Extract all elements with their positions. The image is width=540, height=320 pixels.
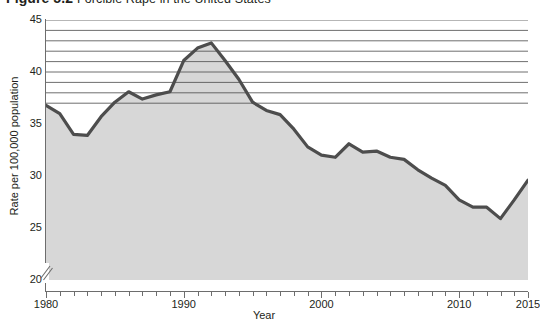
x-axis-tick: [253, 292, 254, 296]
y-axis-line: [45, 19, 46, 281]
x-axis-tick: [404, 292, 405, 296]
x-axis-tick: [198, 292, 199, 296]
y-axis-tick-label: 25: [2, 222, 42, 233]
x-axis-tick: [87, 292, 88, 296]
x-axis-tick: [142, 292, 143, 296]
y-axis-tick-label: 30: [2, 170, 42, 181]
figure-title: Figure 5.2 Forcible Rape in the United S…: [6, 0, 271, 7]
y-axis-tick-label: 20: [2, 274, 42, 285]
plot-area: [46, 20, 528, 280]
x-axis-tick: [335, 292, 336, 296]
x-axis-title: Year: [0, 309, 528, 320]
x-axis-tick: [101, 292, 102, 296]
x-axis-tick: [60, 292, 61, 296]
y-axis-tick-label: 35: [2, 118, 42, 129]
x-axis-tick: [377, 292, 378, 296]
x-axis-tick: [266, 292, 267, 296]
x-axis-tick: [239, 292, 240, 296]
x-axis-tick: [280, 292, 281, 296]
x-axis-tick: [294, 292, 295, 296]
y-axis-tick-label: 40: [2, 66, 42, 77]
x-axis-tick: [487, 292, 488, 296]
x-axis-tick: [514, 292, 515, 296]
axis-break-icon: [39, 263, 53, 283]
y-axis-tick-labels: 454035302520: [0, 0, 42, 320]
x-axis-tick: [129, 292, 130, 296]
x-axis-tick: [432, 292, 433, 296]
x-axis-tick: [473, 292, 474, 296]
x-axis-tick: [363, 292, 364, 296]
x-axis-tick: [170, 292, 171, 296]
figure-caption: Forcible Rape in the United States: [77, 0, 271, 6]
x-axis-tick: [349, 292, 350, 296]
x-axis-tick: [445, 292, 446, 296]
x-axis-tick: [225, 292, 226, 296]
x-axis-tick: [156, 292, 157, 296]
x-axis-tick: [390, 292, 391, 296]
x-axis-tick: [501, 292, 502, 296]
x-axis-tick: [115, 292, 116, 296]
y-axis-tick-label: 45: [2, 14, 42, 25]
x-axis-tick: [308, 292, 309, 296]
chart-plot: [46, 20, 528, 280]
x-axis-tick: [418, 292, 419, 296]
x-axis-tick: [211, 292, 212, 296]
x-axis-tick: [74, 292, 75, 296]
